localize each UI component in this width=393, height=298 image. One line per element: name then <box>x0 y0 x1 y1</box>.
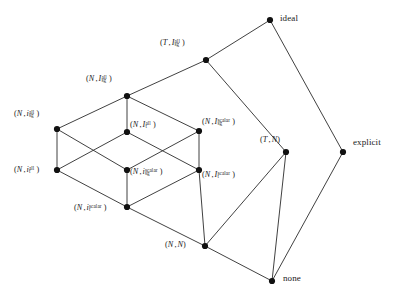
lattice-edge <box>127 60 206 96</box>
node-label-N_It_scalar: (N,Iscalart ) <box>202 170 235 180</box>
node-label-explicit: explicit <box>353 138 381 147</box>
lattice-node-N_isg_all[interactable] <box>54 126 60 132</box>
node-label-N_it_all: (N,iallt ) <box>14 165 39 175</box>
node-label-none: none <box>283 274 301 283</box>
lattice-node-T_Isg_all[interactable] <box>203 57 209 63</box>
lattice-edge <box>205 246 272 281</box>
node-label-N_isg_scalar: (N,iscalarsg ) <box>130 167 163 177</box>
node-label-N_isg_all: (N,iallsg ) <box>14 109 39 119</box>
node-label-T_N: (T,N) <box>260 136 280 145</box>
node-label-ideal: ideal <box>280 14 298 23</box>
node-label-N_It_all: (N,Iallt ) <box>130 120 156 130</box>
lattice-edge <box>57 96 127 129</box>
node-label-N_it_scalar: (N,iscalart ) <box>74 203 107 213</box>
lattice-node-explicit[interactable] <box>340 149 346 155</box>
lattice-diagram: ideal(T,Iallsg )(N,Iallsg )(N,iallsg )(N… <box>0 0 393 298</box>
lattice-node-N_Isg_all[interactable] <box>124 93 130 99</box>
lattice-node-ideal[interactable] <box>267 17 273 23</box>
lattice-node-none[interactable] <box>269 278 275 284</box>
lattice-edge <box>199 170 205 246</box>
lattice-node-N_Isg_scalar[interactable] <box>196 128 202 134</box>
lattice-edge <box>272 152 286 281</box>
node-label-N_N: (N,N) <box>165 241 186 250</box>
node-label-N_Isg_scalar: (N,Iscalarsg ) <box>202 117 235 127</box>
lattice-node-N_N[interactable] <box>202 243 208 249</box>
lattice-edge <box>205 152 286 246</box>
node-label-N_Isg_all: (N,Iallsg ) <box>86 74 112 84</box>
lattice-node-N_it_all[interactable] <box>54 167 60 173</box>
edges-layer <box>57 20 343 281</box>
lattice-graph-canvas <box>0 0 393 298</box>
lattice-node-T_N[interactable] <box>283 149 289 155</box>
lattice-node-N_it_scalar[interactable] <box>124 204 130 210</box>
nodes-layer <box>54 17 346 284</box>
lattice-edge <box>272 152 343 281</box>
lattice-edge <box>270 20 343 152</box>
lattice-edge <box>57 170 127 207</box>
lattice-edge <box>206 20 270 60</box>
node-label-T_Isg_all: (T,Iallsg ) <box>160 38 185 48</box>
